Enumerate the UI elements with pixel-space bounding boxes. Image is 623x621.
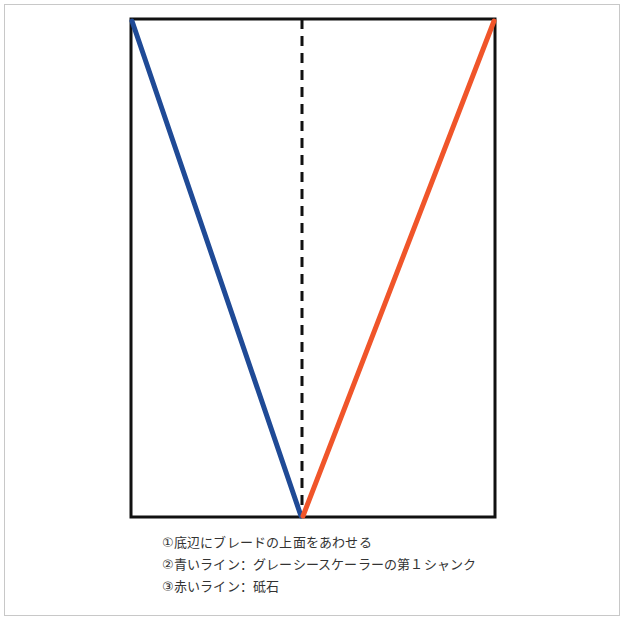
blade-angle-diagram <box>0 0 623 621</box>
blue-line-shank <box>132 21 301 516</box>
caption-2: ②青いライン：グレーシースケーラーの第１シャンク <box>162 554 476 576</box>
caption-3: ③赤いライン：砥石 <box>162 576 476 598</box>
caption-1: ①底辺にブレードの上面をあわせる <box>162 532 476 554</box>
red-line-stone <box>303 21 494 516</box>
caption-list: ①底辺にブレードの上面をあわせる ②青いライン：グレーシースケーラーの第１シャン… <box>162 532 476 598</box>
blade-frame-rectangle <box>131 19 495 517</box>
